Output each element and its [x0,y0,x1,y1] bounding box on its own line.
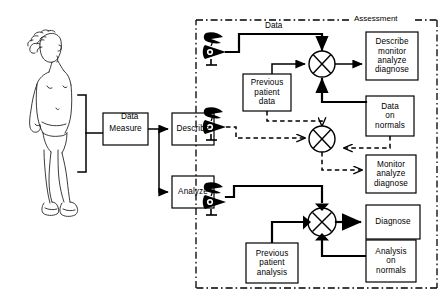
row1-data-path [226,34,322,52]
row2-previous-data-to-comparator-path [267,111,322,126]
previous-patient-analysis-box [246,243,298,283]
row3-output-box [366,205,420,239]
row2-observer-to-comparator-path [226,127,305,138]
row3-observer-to-comparator-path [226,186,322,202]
observer-eye-icon-3 [203,182,226,215]
row2-comparator-output-path [322,152,362,170]
row3-previous-analysis-to-comparator-path [272,222,306,243]
row3-comparator [303,204,336,241]
row2-output-box [366,155,416,193]
diagram-canvas: Assessment Measure Data Describe Analyze… [0,0,446,298]
measure-data-label: Data [121,112,138,121]
toddler-figure-icon [28,30,78,216]
row1-comparator [309,51,335,77]
assessment-panel-label: Assessment [352,14,400,23]
row1-previous-patient-data-box [243,74,291,111]
row1-previous-to-comparator-arrow [272,64,305,74]
row2-normals-to-comparator-path [344,136,390,148]
data-on-normals-box [366,96,414,136]
measurement-bracket [78,95,103,172]
row2-comparator [309,126,335,152]
data-on-normals-to-row1-path [322,79,366,102]
row1-data-label: Data [265,21,282,30]
measure-to-analyze-arrow [159,129,168,192]
row1-output-box [366,32,418,80]
analysis-on-normals-box [366,240,416,282]
row3-normals-to-comparator-path [322,240,366,256]
observer-eye-icon-1 [203,32,226,65]
diagram-vector-layer [0,0,446,298]
